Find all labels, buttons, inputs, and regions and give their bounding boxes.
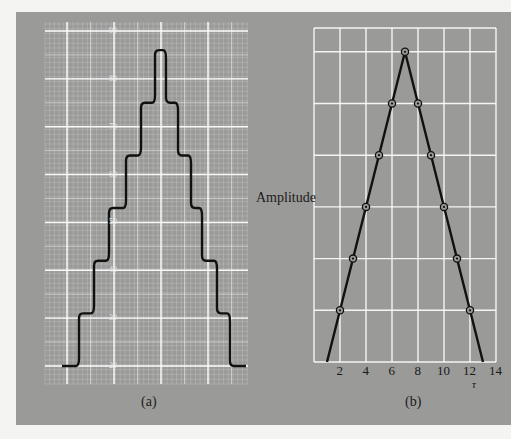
chart-b-x-tick-label: 10 [437,363,450,379]
chart-a-grid [45,22,248,384]
chart-b-x-axis-label: τ [472,378,476,390]
chart-b-x-tick-label: 4 [363,363,370,379]
chart-a-y-tick-label: 40 [109,265,117,274]
chart-b-x-tick-label: 8 [415,363,422,379]
chart-a-y-tick-label: 80 [109,74,117,83]
chart-a-y-tick-label: 60 [109,170,117,179]
chart-b-x-tick-label: 14 [489,363,502,379]
figure-canvas [0,0,511,439]
chart-b-caption: (b) [405,394,421,410]
chart-a-caption: (a) [141,394,157,410]
chart-b-x-tick-label: 6 [389,363,396,379]
chart-b-y-axis-label: Amplitude [256,190,316,206]
chart-a-y-tick-label: 20 [109,361,117,370]
chart-b-x-tick-label: 12 [463,363,476,379]
chart-b-x-tick-label: 2 [337,363,344,379]
chart-a-y-tick-label: 70 [109,122,117,131]
chart-b-sample-markers [336,48,473,314]
chart-a-y-tick-label: 50 [109,217,117,226]
chart-a-y-tick-label: 30 [109,313,117,322]
chart-a-y-tick-label: 90 [109,26,117,35]
